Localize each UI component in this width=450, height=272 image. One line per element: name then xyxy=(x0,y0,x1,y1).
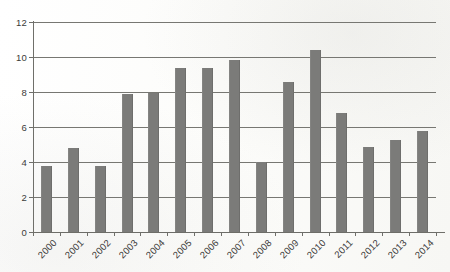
bar-chart-figure: 024681012 200020012002200320042005200620… xyxy=(0,0,450,272)
y-tick-label: 0 xyxy=(22,227,27,238)
y-tick-label: 2 xyxy=(22,192,27,203)
bar-2007 xyxy=(229,60,240,232)
bar-2002 xyxy=(95,166,106,233)
x-tick-label-2008: 2008 xyxy=(251,237,274,260)
bar-2004 xyxy=(148,93,159,232)
bar-2005 xyxy=(175,68,186,233)
x-tick-label-2012: 2012 xyxy=(358,237,381,260)
bar-2012 xyxy=(363,147,374,232)
y-tick-label: 6 xyxy=(22,122,27,133)
bars-layer xyxy=(33,22,436,232)
x-tick-label-2007: 2007 xyxy=(224,237,247,260)
x-axis-labels: 2000200120022003200420052006200720082009… xyxy=(33,233,436,272)
x-tick-label-2000: 2000 xyxy=(36,237,59,260)
bar-2001 xyxy=(68,148,79,232)
x-tick-label-2011: 2011 xyxy=(332,237,355,260)
bar-2008 xyxy=(256,162,267,232)
x-tick-label-2002: 2002 xyxy=(90,237,113,260)
x-tick-label-2013: 2013 xyxy=(385,237,408,260)
x-tick-label-2010: 2010 xyxy=(305,237,328,260)
bar-2009 xyxy=(283,82,294,232)
bar-2010 xyxy=(310,50,321,232)
x-tick-label-2005: 2005 xyxy=(170,237,193,260)
bar-2011 xyxy=(336,113,347,232)
x-tick-label-2006: 2006 xyxy=(197,237,220,260)
x-tick-label-2009: 2009 xyxy=(278,237,301,260)
y-tick-label: 4 xyxy=(22,157,27,168)
bar-2013 xyxy=(390,140,401,232)
bar-2006 xyxy=(202,68,213,233)
x-tick-label-2004: 2004 xyxy=(143,237,166,260)
x-tick-label-2003: 2003 xyxy=(117,237,140,260)
bar-2003 xyxy=(122,94,133,232)
y-tick-label: 8 xyxy=(22,87,27,98)
x-tick-mark xyxy=(436,232,437,236)
x-tick-label-2014: 2014 xyxy=(412,237,435,260)
bar-2014 xyxy=(417,131,428,233)
y-tick-label: 10 xyxy=(16,52,27,63)
plot-area: 024681012 xyxy=(33,22,436,232)
bar-2000 xyxy=(41,166,52,233)
y-tick-label: 12 xyxy=(16,17,27,28)
x-tick-label-2001: 2001 xyxy=(63,237,86,260)
